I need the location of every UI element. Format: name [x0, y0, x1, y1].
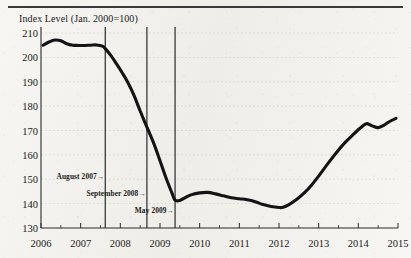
x-tick-label: 2015: [388, 238, 409, 249]
data-series-line: [43, 40, 396, 208]
chart-figure: Index Level (Jan. 2000=100) 130140150160…: [0, 0, 411, 258]
x-axis-ticks: [41, 223, 398, 228]
x-tick-label: 2013: [308, 238, 329, 249]
annotation-september-2008: September 2008→: [86, 189, 145, 198]
x-tick-label: 2014: [348, 238, 369, 249]
x-tick-label: 2011: [229, 238, 250, 249]
annotation-august-2007: August 2007→: [56, 172, 104, 181]
annotation-may-2009: May 2009→: [135, 206, 174, 215]
plot-area: [0, 0, 411, 258]
event-vertical-lines: [105, 27, 175, 228]
x-tick-label: 2010: [189, 238, 210, 249]
x-tick-label: 2008: [110, 238, 131, 249]
x-tick-label: 2009: [150, 238, 171, 249]
x-tick-label: 2006: [31, 238, 52, 249]
x-tick-label: 2012: [269, 238, 290, 249]
x-tick-label: 2007: [70, 238, 91, 249]
